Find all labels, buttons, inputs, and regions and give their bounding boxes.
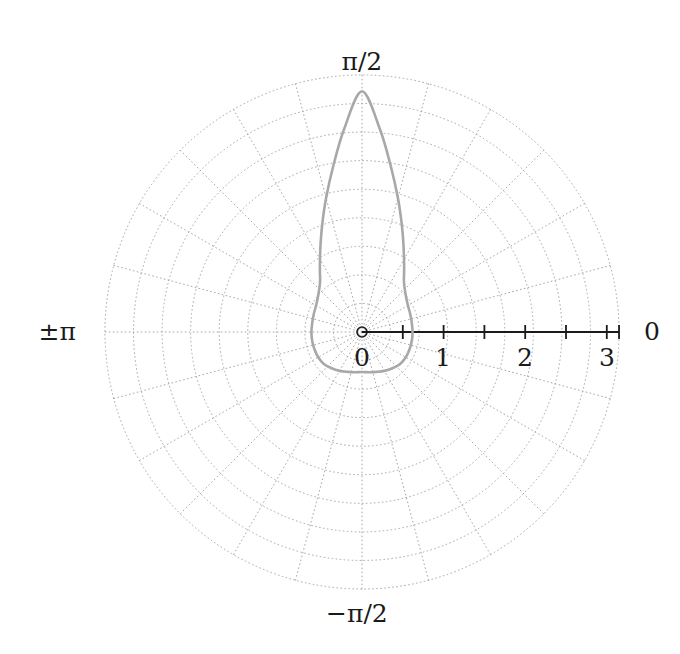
polar-axes (0, 0, 680, 654)
angular-label-minus-pi-over-2: −π/2 (326, 601, 388, 626)
angular-label-pi-over-2: π/2 (342, 49, 383, 74)
radial-tick-label-3: 3 (599, 345, 615, 370)
polar-plot-figure: π/2 ±π 0 −π/2 0 1 2 3 (0, 0, 680, 654)
angular-label-zero: 0 (644, 319, 660, 344)
radial-tick-label-1: 1 (435, 345, 451, 370)
radial-tick-label-0: 0 (354, 345, 370, 370)
angular-label-plus-minus-pi: ±π (39, 319, 76, 344)
radial-tick-label-2: 2 (517, 345, 533, 370)
